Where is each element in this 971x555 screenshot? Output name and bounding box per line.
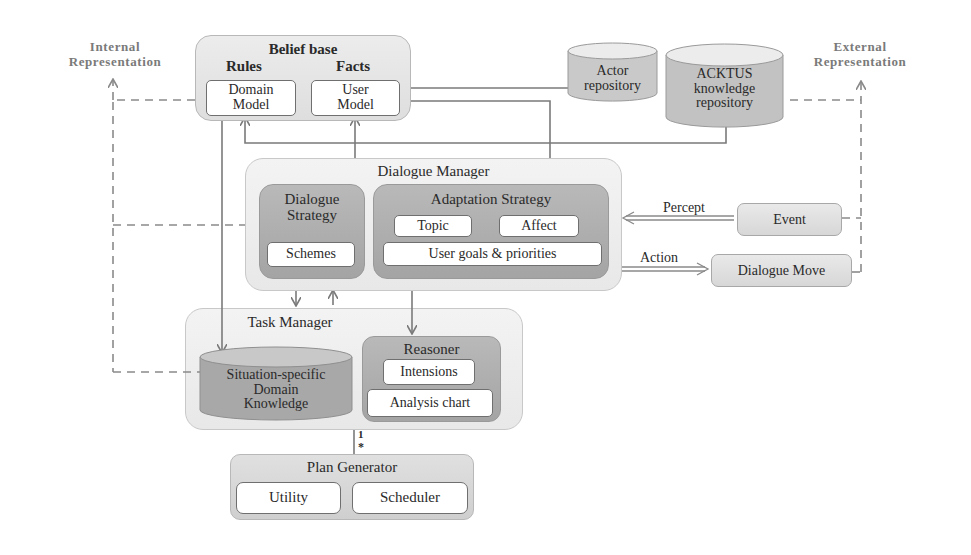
actor-repository[interactable]: Actor repository [568,64,657,93]
reasoner[interactable]: Reasoner Intensions Analysis chart [362,336,501,422]
reasoner-title: Reasoner [363,341,500,358]
adaptation-strategy-title: Adaptation Strategy [374,191,608,208]
situation-knowledge-line1: Situation-specific [200,368,352,383]
actor-repository-line2: repository [568,79,657,94]
rules-label: Rules [226,58,262,75]
multiplicity-one: 1 [358,428,364,440]
affect-box[interactable]: Affect [499,215,579,237]
dialogue-move-box[interactable]: Dialogue Move [711,254,852,287]
belief-base-title: Belief base [196,41,410,58]
multiplicity-many: * [358,440,364,455]
percept-label: Percept [663,200,705,216]
dialogue-strategy-line1: Dialogue [260,192,364,208]
adaptation-strategy[interactable]: Adaptation Strategy Topic Affect User go… [373,184,609,279]
analysis-chart-box[interactable]: Analysis chart [367,389,493,417]
dialogue-manager[interactable]: Dialogue Manager Dialogue Strategy Schem… [245,158,622,291]
external-representation-dashed-links [790,82,861,272]
situation-knowledge-line3: Knowledge [200,397,352,412]
user-model-line2: Model [337,98,374,113]
scheduler-box[interactable]: Scheduler [352,482,468,514]
belief-base[interactable]: Belief base Rules Facts Domain Model Use… [195,35,411,121]
external-representation-line1: External [790,40,930,55]
domain-model-line1: Domain [228,83,273,98]
dialogue-strategy[interactable]: Dialogue Strategy Schemes [259,184,365,279]
domain-model-line2: Model [233,98,270,113]
external-representation-label: External Representation [790,40,930,70]
acktus-repository-line2: knowledge [666,82,783,97]
action-label: Action [640,250,678,266]
plan-generator-title: Plan Generator [231,459,473,476]
task-manager-title: Task Manager [185,314,395,331]
situation-specific-domain-knowledge[interactable]: Situation-specific Domain Knowledge [200,368,352,412]
domain-model-box[interactable]: Domain Model [206,80,296,116]
facts-label: Facts [336,58,370,75]
actor-repository-line1: Actor [568,64,657,79]
event-box[interactable]: Event [737,203,842,236]
acktus-repository-line3: repository [666,96,783,111]
situation-knowledge-line2: Domain [200,383,352,398]
user-model-box[interactable]: User Model [311,80,400,116]
plan-generator[interactable]: Plan Generator Utility Scheduler [230,454,474,520]
dialogue-manager-title: Dialogue Manager [246,163,621,180]
topic-box[interactable]: Topic [394,215,472,237]
internal-representation-line2: Representation [50,55,180,70]
external-representation-line2: Representation [790,55,930,70]
dialogue-strategy-title: Dialogue Strategy [260,192,364,224]
acktus-knowledge-repository[interactable]: ACKTUS knowledge repository [666,67,783,111]
user-goals-priorities-box[interactable]: User goals & priorities [383,242,602,266]
internal-representation-line1: Internal [50,40,180,55]
user-model-line1: User [342,83,368,98]
internal-representation-label: Internal Representation [50,40,180,70]
acktus-repository-line1: ACKTUS [666,67,783,82]
utility-box[interactable]: Utility [236,482,341,514]
dialogue-strategy-line2: Strategy [260,208,364,224]
schemes-box[interactable]: Schemes [267,242,355,267]
intensions-box[interactable]: Intensions [383,359,475,385]
